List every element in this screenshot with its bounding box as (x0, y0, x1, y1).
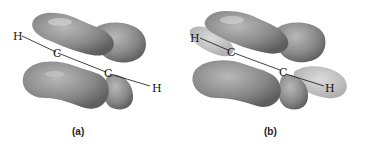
atom-c-right: C (279, 66, 287, 79)
atom-h-right: H (325, 82, 335, 95)
atom-h-left: H (13, 30, 23, 43)
upper-front-lobe (32, 13, 114, 56)
lower-front-lobe (192, 60, 280, 107)
caption-b: (b) (264, 126, 277, 137)
panel-b: H C C H (b) (182, 0, 364, 149)
lower-front-lobe (23, 61, 109, 108)
panel-a: H C C H (a) (0, 0, 182, 149)
atom-h-right: H (152, 82, 162, 95)
atom-c-left: C (53, 47, 61, 60)
atom-c-right: C (104, 67, 112, 80)
caption-a: (a) (72, 126, 84, 137)
atom-h-left: H (190, 32, 200, 45)
pi-orbital-diagram-a: H C C H (0, 0, 182, 149)
atom-c-left: C (227, 46, 235, 59)
